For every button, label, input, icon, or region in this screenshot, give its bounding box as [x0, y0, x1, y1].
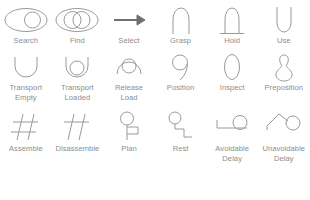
symbol-cell-transport-loaded[interactable]: Transport Loaded — [52, 53, 104, 102]
symbol-cell-find[interactable]: Find — [52, 5, 104, 45]
symbol-label: Hold — [224, 36, 240, 45]
symbol-label: Plan — [121, 144, 136, 153]
grasp-arch-icon — [158, 5, 204, 35]
symbol-cell-release-load[interactable]: Release Load — [103, 53, 155, 102]
symbol-label: Search — [14, 36, 38, 45]
hold-arch-baseline-icon — [209, 5, 255, 35]
symbol-cell-grasp[interactable]: Grasp — [155, 5, 207, 45]
symbol-label: Disassemble — [55, 144, 99, 153]
symbol-cell-position[interactable]: Position — [155, 53, 207, 102]
symbol-label: Transport Empty — [9, 83, 42, 102]
select-arrow-icon — [106, 5, 152, 35]
symbol-label: Use — [277, 36, 291, 45]
symbol-cell-avoidable-delay[interactable]: Avoidable Delay — [206, 111, 258, 163]
transport-empty-bowl-icon — [3, 53, 49, 82]
symbol-label: Assemble — [9, 144, 43, 153]
symbol-label: Select — [118, 36, 139, 45]
symbol-label: Avoidable Delay — [215, 144, 249, 163]
symbol-label: Release Load — [115, 83, 143, 102]
symbol-cell-assemble[interactable]: Assemble — [0, 111, 52, 163]
symbol-cell-hold[interactable]: Hold — [206, 5, 258, 45]
symbol-label: Rest — [173, 144, 189, 153]
symbol-cell-plan[interactable]: Plan — [103, 111, 155, 163]
symbol-cell-use[interactable]: Use — [258, 5, 310, 45]
symbol-cell-preposition[interactable]: Preposition — [258, 53, 310, 102]
symbol-label: Preposition — [264, 83, 303, 92]
find-two-circles-ellipse-icon — [54, 5, 100, 35]
plan-head-hand-icon — [106, 111, 152, 143]
symbol-row: Transport Empty Transport Loaded Release… — [0, 45, 310, 102]
unavoidable-delay-icon — [261, 111, 307, 143]
release-load-dome-circle-icon — [106, 53, 152, 82]
symbol-cell-rest[interactable]: Rest — [155, 111, 207, 163]
symbol-label: Unavoidable Delay — [262, 144, 305, 163]
symbol-row: Assemble Disassemble Plan — [0, 102, 310, 163]
symbol-cell-disassemble[interactable]: Disassemble — [52, 111, 104, 163]
symbol-label: Inspect — [220, 83, 245, 92]
symbol-label: Transport Loaded — [61, 83, 94, 102]
symbol-row: Search Find Select Grasp — [0, 0, 310, 45]
assemble-hash-icon — [3, 111, 49, 143]
search-eye-ellipse-icon — [3, 5, 49, 35]
symbol-cell-transport-empty[interactable]: Transport Empty — [0, 53, 52, 102]
rest-head-seat-icon — [158, 111, 204, 143]
disassemble-double-slash-icon — [54, 111, 100, 143]
avoidable-delay-icon — [209, 111, 255, 143]
use-u-icon — [261, 5, 307, 35]
symbol-cell-inspect[interactable]: Inspect — [206, 53, 258, 102]
symbol-label: Grasp — [170, 36, 191, 45]
symbol-cell-select[interactable]: Select — [103, 5, 155, 45]
symbol-label: Find — [70, 36, 85, 45]
position-nine-icon — [158, 53, 204, 82]
inspect-lens-icon — [209, 53, 255, 82]
symbol-cell-search[interactable]: Search — [0, 5, 52, 45]
symbol-label: Position — [167, 83, 194, 92]
transport-loaded-bowl-circle-icon — [54, 53, 100, 82]
symbol-cell-unavoidable-delay[interactable]: Unavoidable Delay — [258, 111, 310, 163]
preposition-pin-icon — [261, 53, 307, 82]
therblig-symbol-chart: Search Find Select Grasp — [0, 0, 310, 200]
